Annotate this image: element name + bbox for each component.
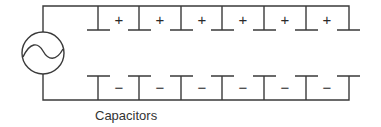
circuit-diagram: + + + + + + − − − − − − [0,0,381,127]
minus-sign: − [115,79,124,96]
minus-sign: − [281,79,290,96]
plus-sign: + [198,11,207,28]
plus-sign: + [239,11,248,28]
minus-signs: − − − − − − [115,79,332,96]
sine-wave-icon [23,45,63,58]
minus-sign: − [198,79,207,96]
capacitors-label: Capacitors [95,108,157,123]
minus-sign: − [239,79,248,96]
top-plates [87,6,360,30]
plus-sign: + [115,11,124,28]
minus-sign: − [156,79,165,96]
ac-source-circle [22,32,64,74]
ac-source [22,6,349,100]
bottom-wire [43,74,349,100]
bottom-plates [87,76,360,100]
plus-sign: + [281,11,290,28]
top-wire [43,6,349,32]
plus-sign: + [323,11,332,28]
plus-signs: + + + + + + [115,11,332,28]
minus-sign: − [323,79,332,96]
plus-sign: + [156,11,165,28]
